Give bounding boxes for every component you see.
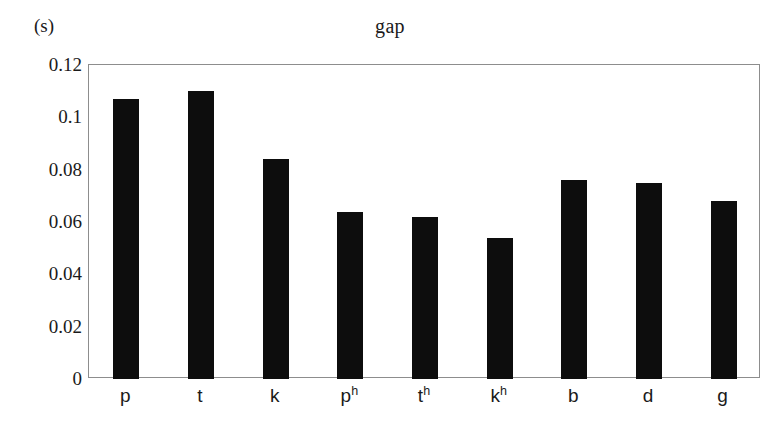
aspiration-superscript: h bbox=[500, 384, 507, 398]
bar-slot bbox=[686, 65, 761, 379]
x-axis-tick-label: b bbox=[568, 386, 579, 405]
x-axis-tick-label: p bbox=[120, 386, 131, 405]
aspiration-superscript: h bbox=[423, 384, 430, 398]
x-axis: ptkphthkhbdg bbox=[88, 386, 760, 426]
y-axis-tick-label: 0.1 bbox=[0, 107, 82, 126]
bar-slot bbox=[537, 65, 612, 379]
bar-chart-figure: (s) gap 00.020.040.060.080.10.12 ptkphth… bbox=[0, 0, 780, 448]
bar-slot bbox=[388, 65, 463, 379]
bar bbox=[412, 217, 438, 379]
y-axis-tick-label: 0.04 bbox=[0, 264, 82, 283]
bar bbox=[487, 238, 513, 379]
y-axis-tick-label: 0.12 bbox=[0, 55, 82, 74]
bar-slot bbox=[89, 65, 164, 379]
bar-slot bbox=[612, 65, 687, 379]
x-axis-tick-label: t bbox=[197, 386, 202, 405]
y-axis-tick-label: 0.06 bbox=[0, 212, 82, 231]
y-axis-tick-label: 0.02 bbox=[0, 316, 82, 335]
bar bbox=[263, 159, 289, 379]
plot-area bbox=[88, 64, 760, 378]
x-axis-tick-label: th bbox=[418, 386, 430, 405]
x-axis-tick-label: d bbox=[643, 386, 654, 405]
bar bbox=[711, 201, 737, 379]
bar bbox=[113, 99, 139, 379]
x-axis-tick-label: ph bbox=[341, 386, 359, 405]
bar bbox=[561, 180, 587, 379]
y-axis: 00.020.040.060.080.10.12 bbox=[0, 64, 82, 378]
bar bbox=[636, 183, 662, 379]
bar bbox=[337, 212, 363, 379]
y-axis-tick-label: 0.08 bbox=[0, 159, 82, 178]
chart-title: gap bbox=[0, 16, 780, 36]
bar-slot bbox=[462, 65, 537, 379]
bar-slot bbox=[313, 65, 388, 379]
x-axis-tick-label: kh bbox=[490, 386, 506, 405]
x-axis-tick-label: k bbox=[270, 386, 280, 405]
bar bbox=[188, 91, 214, 379]
aspiration-superscript: h bbox=[351, 384, 358, 398]
bars-container bbox=[89, 65, 761, 379]
x-axis-tick-label: g bbox=[717, 386, 728, 405]
y-axis-tick-label: 0 bbox=[0, 369, 82, 388]
bar-slot bbox=[238, 65, 313, 379]
bar-slot bbox=[164, 65, 239, 379]
